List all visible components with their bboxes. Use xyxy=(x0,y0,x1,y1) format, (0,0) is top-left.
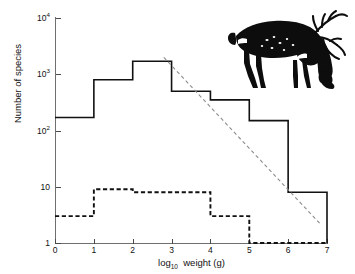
series-threatened-species-step xyxy=(55,189,327,243)
figure-root: 110102103104 01234567 Number of species … xyxy=(0,0,355,274)
grazing-deer-silhouette-icon xyxy=(218,10,350,92)
